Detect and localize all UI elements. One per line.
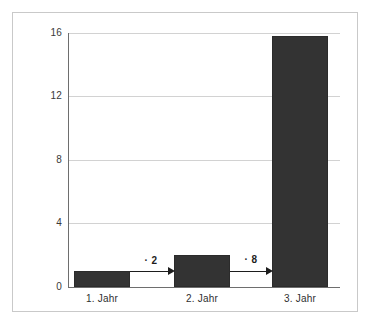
annotation-arrow-1-shaft bbox=[130, 271, 168, 272]
y-tick-label-12: 12 bbox=[22, 90, 62, 101]
x-axis-line bbox=[68, 287, 340, 288]
annotation-arrow-2 bbox=[230, 267, 273, 276]
y-tick-label-16: 16 bbox=[22, 27, 62, 38]
y-axis-line bbox=[68, 33, 69, 288]
bar-3-jahr bbox=[272, 36, 328, 287]
annotation-label-2: · 8 bbox=[228, 254, 274, 265]
annotation-arrow-1-head bbox=[168, 267, 175, 275]
annotation-arrow-2-shaft bbox=[230, 271, 266, 272]
x-tick-label-1-jahr: 1. Jahr bbox=[72, 293, 132, 304]
y-tick-label-8: 8 bbox=[22, 154, 62, 165]
bar-chart-figure: 16 12 8 4 0 · 2 · 8 1. Jahr 2. Jahr 3. J… bbox=[0, 0, 374, 325]
annotation-label-1: · 2 bbox=[128, 255, 174, 266]
bar-1-jahr bbox=[74, 271, 130, 287]
annotation-arrow-1 bbox=[130, 267, 175, 276]
x-tick-label-2-jahr: 2. Jahr bbox=[172, 293, 232, 304]
gridline-16 bbox=[68, 33, 340, 34]
x-tick-label-3-jahr: 3. Jahr bbox=[270, 293, 330, 304]
y-tick-label-0: 0 bbox=[22, 281, 62, 292]
y-axis-labels: 16 12 8 4 0 bbox=[16, 0, 62, 325]
annotation-arrow-2-head bbox=[266, 267, 273, 275]
y-tick-label-4: 4 bbox=[22, 217, 62, 228]
bar-2-jahr bbox=[174, 255, 230, 287]
